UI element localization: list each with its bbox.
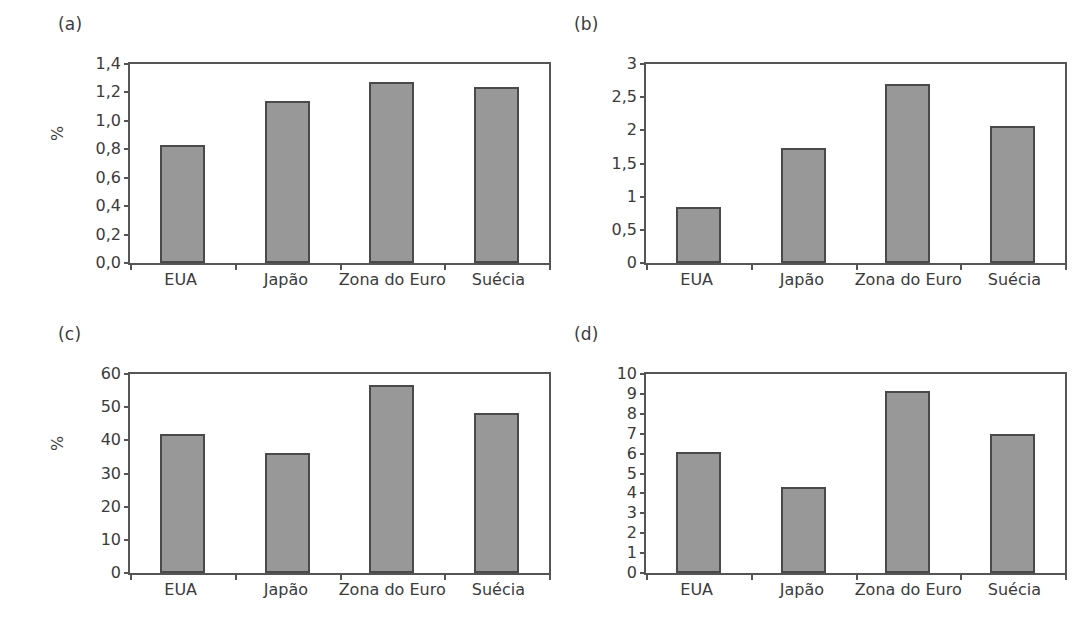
x-tick-mark: [130, 573, 132, 580]
panel-label-b: (b): [574, 14, 599, 34]
bar: [160, 145, 205, 263]
bar-slot: [646, 374, 751, 573]
x-category-label: Japão: [233, 580, 338, 599]
bar: [160, 434, 205, 573]
x-tick-mark: [235, 573, 237, 580]
plot-area-c: 0102030405060: [128, 372, 551, 575]
x-category-label: Zona do Euro: [855, 580, 962, 599]
bar-slot: [960, 64, 1065, 263]
bar: [885, 84, 930, 263]
x-tick-mark: [549, 263, 551, 270]
x-category-label: Zona do Euro: [855, 270, 962, 289]
x-tick-mark: [856, 263, 858, 270]
x-tick-mark: [751, 263, 753, 270]
bar: [676, 207, 721, 263]
plot-area-a: 0,00,20,40,60,81,01,21,4: [128, 62, 551, 265]
x-tick-mark: [856, 573, 858, 580]
x-tick-mark: [646, 573, 648, 580]
x-category-label: Zona do Euro: [339, 580, 446, 599]
bar-slot: [751, 374, 856, 573]
x-category-label: EUA: [128, 580, 233, 599]
bar-series: [130, 374, 549, 573]
x-category-label: Suécia: [962, 580, 1067, 599]
x-axis-labels-b: EUAJapãoZona do EuroSuécia: [644, 270, 1067, 289]
x-category-label: Suécia: [962, 270, 1067, 289]
x-tick-mark: [960, 573, 962, 580]
x-tick-mark: [130, 263, 132, 270]
x-category-label: EUA: [644, 580, 749, 599]
x-tick-mark: [1065, 573, 1067, 580]
bar-series: [130, 64, 549, 263]
bar: [781, 487, 826, 573]
x-tick-mark: [751, 573, 753, 580]
x-axis-labels-d: EUAJapãoZona do EuroSuécia: [644, 580, 1067, 599]
bar-slot: [340, 64, 445, 263]
x-tick-mark: [444, 263, 446, 270]
bar: [265, 101, 310, 263]
panel-b: (b) 00,511,522,53 EUAJapãoZona do EuroSu…: [552, 4, 1072, 309]
bar-slot: [856, 64, 961, 263]
x-tick-mark: [1065, 263, 1067, 270]
x-category-label: Japão: [233, 270, 338, 289]
x-tick-mark: [444, 573, 446, 580]
bar: [990, 434, 1035, 573]
figure-canvas: (a) % 0,00,20,40,60,81,01,21,4 EUAJapãoZ…: [0, 0, 1079, 629]
x-axis-labels-c: EUAJapãoZona do EuroSuécia: [128, 580, 551, 599]
bar-series: [646, 374, 1065, 573]
bar-slot: [960, 374, 1065, 573]
x-tick-mark: [340, 263, 342, 270]
bar-slot: [751, 64, 856, 263]
x-tick-mark: [340, 573, 342, 580]
bar: [369, 385, 414, 573]
bar-slot: [235, 64, 340, 263]
bar: [990, 126, 1035, 263]
bar-slot: [646, 64, 751, 263]
bar: [265, 453, 310, 573]
x-tick-mark: [235, 263, 237, 270]
x-category-label: EUA: [128, 270, 233, 289]
bar-slot: [340, 374, 445, 573]
y-axis-label-c: %: [48, 436, 67, 451]
bar-slot: [856, 374, 961, 573]
x-tick-mark: [549, 573, 551, 580]
panel-label-d: (d): [574, 324, 599, 344]
bar-slot: [444, 64, 549, 263]
bar: [885, 391, 930, 573]
x-axis-labels-a: EUAJapãoZona do EuroSuécia: [128, 270, 551, 289]
bar: [474, 413, 519, 573]
panel-c: (c) % 0102030405060 EUAJapãoZona do Euro…: [36, 314, 556, 619]
bar-slot: [235, 374, 340, 573]
x-category-label: Zona do Euro: [339, 270, 446, 289]
bar-slot: [130, 64, 235, 263]
bar-slot: [130, 374, 235, 573]
x-category-label: Suécia: [446, 580, 551, 599]
bar-slot: [444, 374, 549, 573]
panel-a: (a) % 0,00,20,40,60,81,01,21,4 EUAJapãoZ…: [36, 4, 556, 309]
bar: [676, 452, 721, 573]
plot-area-b: 00,511,522,53: [644, 62, 1067, 265]
panel-label-c: (c): [58, 324, 81, 344]
x-category-label: Japão: [749, 580, 854, 599]
panel-label-a: (a): [58, 14, 82, 34]
x-category-label: Suécia: [446, 270, 551, 289]
y-axis-label-a: %: [48, 126, 67, 141]
x-category-label: Japão: [749, 270, 854, 289]
bar: [369, 82, 414, 263]
plot-area-d: 012345678910: [644, 372, 1067, 575]
x-tick-mark: [646, 263, 648, 270]
bar: [474, 87, 519, 263]
x-tick-mark: [960, 263, 962, 270]
bar-series: [646, 64, 1065, 263]
panel-d: (d) 012345678910 EUAJapãoZona do EuroSué…: [552, 314, 1072, 619]
x-category-label: EUA: [644, 270, 749, 289]
bar: [781, 148, 826, 263]
